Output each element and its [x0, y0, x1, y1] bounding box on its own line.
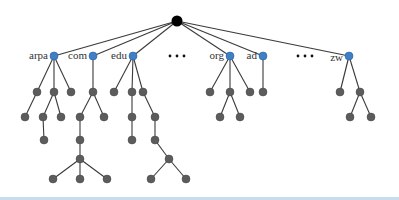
domain-node: [110, 88, 118, 96]
tld-node-zw: [345, 52, 353, 60]
domain-node: [151, 136, 159, 144]
domain-node: [67, 88, 75, 96]
domain-node: [139, 88, 147, 96]
tld-label-com: com: [68, 49, 87, 61]
tld-label-arpa: arpa: [29, 49, 48, 61]
domain-node: [206, 88, 214, 96]
ellipsis-dot: [297, 55, 300, 58]
domain-node: [236, 113, 244, 121]
domain-node: [76, 136, 84, 144]
edge: [93, 21, 177, 56]
domain-node: [226, 88, 234, 96]
ellipsis-dot: [304, 55, 307, 58]
domain-node: [356, 88, 364, 96]
domain-node: [259, 88, 267, 96]
ellipsis-dot: [169, 55, 172, 58]
tld-node-org: [226, 52, 234, 60]
domain-node: [165, 155, 173, 163]
edge: [54, 56, 71, 92]
domain-node: [33, 88, 41, 96]
edge: [132, 56, 133, 92]
tld-label-org: org: [210, 49, 225, 61]
edge: [133, 56, 143, 92]
edge: [114, 56, 133, 92]
domain-node: [336, 88, 344, 96]
tld-label-ad: ad: [247, 49, 258, 61]
domain-node: [21, 113, 29, 121]
domain-node: [147, 175, 155, 183]
edge: [349, 56, 360, 92]
tree-nodes: [21, 16, 375, 184]
edge: [80, 159, 107, 179]
bottom-border: [0, 197, 399, 200]
tree-edges: [25, 21, 371, 179]
domain-node: [49, 175, 57, 183]
edge: [53, 159, 80, 179]
edge: [37, 56, 54, 92]
domain-node: [76, 175, 84, 183]
tld-label-edu: edu: [111, 49, 127, 61]
edge: [230, 56, 250, 92]
domain-node: [151, 113, 159, 121]
edge: [133, 21, 177, 56]
ellipsis-dot: [183, 55, 186, 58]
domain-node: [182, 175, 190, 183]
domain-node: [57, 113, 65, 121]
domain-node: [128, 136, 136, 144]
domain-node: [128, 113, 136, 121]
tld-node-arpa: [50, 52, 58, 60]
domain-node: [128, 88, 136, 96]
tld-node-edu: [129, 52, 137, 60]
domain-node: [103, 175, 111, 183]
edge: [210, 56, 230, 92]
domain-node: [367, 113, 375, 121]
domain-node: [346, 113, 354, 121]
domain-node: [246, 88, 254, 96]
tld-node-ad: [259, 52, 267, 60]
tld-label-zw: zw: [330, 51, 343, 63]
domain-node: [40, 136, 48, 144]
tld-node-com: [89, 52, 97, 60]
tld-labels: arpacomeduorgadzw: [29, 49, 343, 63]
root-node: [172, 16, 183, 27]
domain-node: [50, 88, 58, 96]
domain-node: [76, 155, 84, 163]
domain-node: [89, 88, 97, 96]
dns-tree-diagram: arpacomeduorgadzw: [0, 0, 399, 200]
ellipsis-dot: [311, 55, 314, 58]
domain-node: [76, 113, 84, 121]
domain-node: [39, 113, 47, 121]
domain-node: [216, 113, 224, 121]
domain-node: [100, 113, 108, 121]
ellipsis-dot: [176, 55, 179, 58]
